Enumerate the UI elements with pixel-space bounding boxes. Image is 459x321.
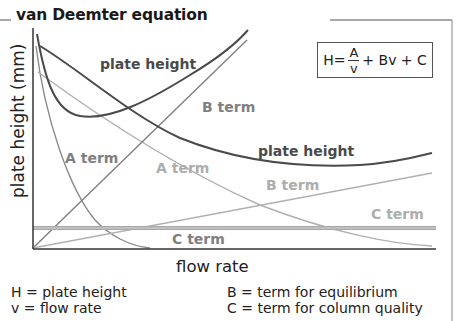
- legend-c: C = term for column quality: [227, 300, 423, 316]
- label-c-term-2: C term: [172, 231, 225, 247]
- legend-right: B = term for equilibrium C = term for co…: [227, 284, 423, 316]
- equation-box: H= A v + Bv + C: [317, 42, 433, 78]
- label-b-term-1: B term: [202, 99, 255, 115]
- label-plate-height-2: plate height: [258, 143, 354, 159]
- label-a-term-1: A term: [65, 150, 118, 166]
- legend-v: v = flow rate: [11, 300, 127, 316]
- x-axis-label: flow rate: [176, 257, 249, 276]
- legend-b: B = term for equilibrium: [227, 284, 423, 300]
- equation-fraction: A v: [348, 46, 359, 75]
- a-term-curve-steep: [36, 46, 150, 248]
- equation-rest: + Bv + C: [362, 52, 426, 68]
- label-c-term-1: C term: [371, 206, 424, 222]
- equation-numerator: A: [348, 46, 359, 61]
- legend-h: H = plate height: [11, 284, 127, 300]
- label-plate-height-1: plate height: [100, 56, 196, 72]
- equation-lhs: H=: [323, 52, 345, 68]
- equation-denominator: v: [350, 61, 358, 75]
- label-b-term-2: B term: [266, 177, 319, 193]
- label-a-term-2: A term: [156, 160, 209, 176]
- y-axis-label: plate height (mm): [8, 78, 28, 198]
- legend-left: H = plate height v = flow rate: [11, 284, 127, 316]
